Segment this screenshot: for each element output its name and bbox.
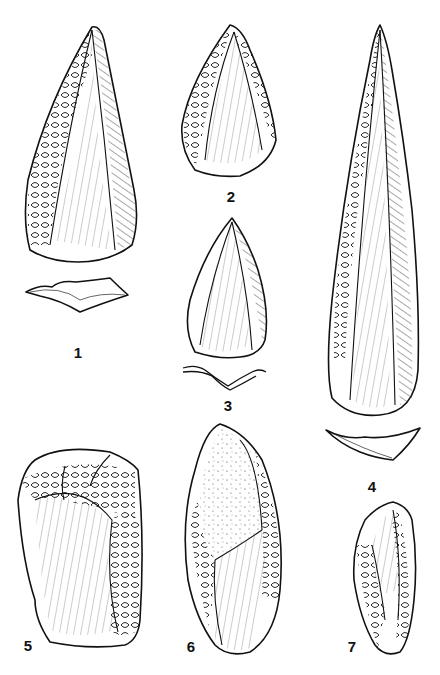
label-1: 1 <box>74 344 82 361</box>
label-2: 2 <box>227 188 235 205</box>
artifact-4 <box>326 25 420 460</box>
label-7: 7 <box>348 638 356 655</box>
label-4: 4 <box>368 478 376 495</box>
artifact-5 <box>18 449 142 647</box>
artifact-1 <box>25 27 136 312</box>
artifact-3 <box>183 218 267 390</box>
label-6: 6 <box>187 638 195 655</box>
artifact-2 <box>182 25 276 176</box>
label-3: 3 <box>224 397 232 414</box>
artifact-6 <box>185 424 281 654</box>
artifact-drawings <box>0 0 440 675</box>
artifact-7 <box>354 502 416 654</box>
label-5: 5 <box>24 637 32 654</box>
